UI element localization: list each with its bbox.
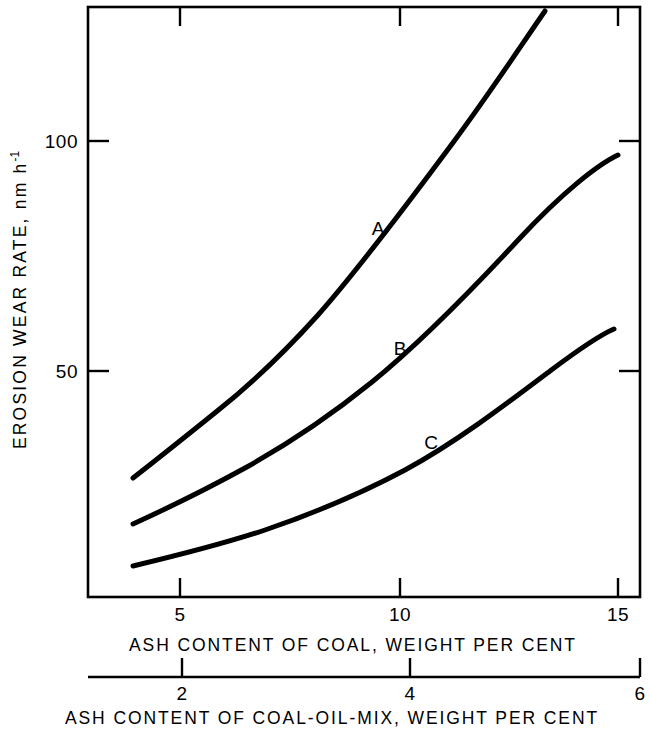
chart-figure: 100 50 EROSION WEAR RATE, nm h-1 A B C 5…	[0, 0, 650, 730]
x-tick-label-15: 15	[607, 604, 629, 625]
y-axis-title-text: EROSION WEAR RATE, nm h	[10, 162, 30, 450]
curve-label-c: C	[424, 432, 438, 453]
erosion-wear-rate-chart: 100 50 EROSION WEAR RATE, nm h-1 A B C 5…	[0, 0, 650, 730]
secondary-x-tick-label-6: 6	[634, 683, 645, 704]
x-tick-label-5: 5	[174, 604, 185, 625]
svg-text:EROSION WEAR RATE, nm h-1: EROSION WEAR RATE, nm h-1	[8, 151, 30, 450]
curve-label-a: A	[372, 218, 385, 239]
secondary-x-tick-label-2: 2	[176, 683, 187, 704]
y-tick-label-50: 50	[56, 361, 78, 382]
curve-label-b: B	[394, 338, 407, 359]
x-tick-label-10: 10	[389, 604, 411, 625]
y-axis-title-exponent: -1	[8, 151, 22, 162]
y-tick-label-100: 100	[45, 131, 78, 152]
chart-background	[0, 0, 650, 730]
x-axis-title: ASH CONTENT OF COAL, WEIGHT PER CENT	[129, 635, 577, 655]
secondary-x-axis-title: ASH CONTENT OF COAL-OIL-MIX, WEIGHT PER …	[65, 708, 599, 728]
y-axis-title: EROSION WEAR RATE, nm h-1	[8, 151, 30, 450]
secondary-x-tick-label-4: 4	[404, 683, 415, 704]
